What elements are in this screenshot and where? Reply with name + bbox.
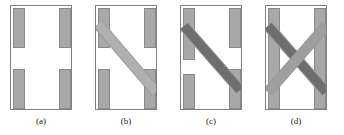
panel-caption-a: (a) bbox=[21, 116, 61, 126]
top-left-bar-a bbox=[13, 8, 25, 48]
panel-d bbox=[265, 5, 327, 110]
left-bar-full-d bbox=[268, 8, 280, 109]
panel-a bbox=[10, 5, 72, 110]
bottom-right-bar-b bbox=[144, 69, 156, 109]
bottom-left-bar-b bbox=[98, 69, 110, 109]
top-right-bar-c bbox=[229, 8, 241, 48]
bottom-left-bar-a bbox=[13, 69, 25, 109]
top-left-bar-b bbox=[98, 8, 110, 48]
panel-caption-d: (d) bbox=[276, 116, 316, 126]
panel-b bbox=[95, 5, 157, 110]
panel-c bbox=[180, 5, 242, 110]
panel-frame-c bbox=[180, 5, 242, 110]
panel-caption-c: (c) bbox=[191, 116, 231, 126]
panel-frame-d bbox=[265, 5, 327, 110]
bottom-right-bar-a bbox=[59, 69, 71, 109]
panel-frame-a bbox=[10, 5, 72, 110]
right-bar-full-d bbox=[314, 8, 326, 109]
panel-frame-b bbox=[95, 5, 157, 110]
bottom-right-bar-c bbox=[229, 69, 241, 109]
top-right-bar-a bbox=[59, 8, 71, 48]
top-right-bar-b bbox=[144, 8, 156, 48]
panel-caption-b: (b) bbox=[106, 116, 146, 126]
figure-container: (a)(b)(c)(d) bbox=[0, 0, 344, 135]
bottom-left-bar-c bbox=[183, 74, 195, 109]
top-left-bar-c bbox=[183, 8, 195, 60]
